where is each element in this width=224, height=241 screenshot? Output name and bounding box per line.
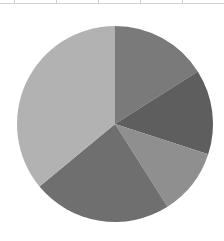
pie-chart: [0, 0, 224, 241]
pie-slices: [17, 26, 213, 222]
